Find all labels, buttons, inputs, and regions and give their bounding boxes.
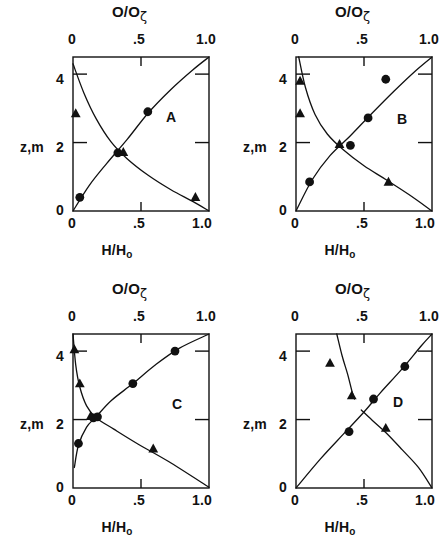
panel-C-top-tick-0: 0: [68, 309, 76, 323]
data-point-circle: [381, 75, 390, 84]
panel-B: O/Oζ 0 .5 1.0 4 2 0 z,m 0 .5 1.0 H/Ho B: [223, 0, 446, 277]
panel-D-bottom-tick-2: 1.0: [415, 493, 435, 507]
panel-C-y-tick-0: 0: [56, 480, 64, 494]
panel-B-top-axis-label: O/Oζ: [335, 4, 370, 23]
data-point-circle: [143, 107, 152, 116]
panel-D-y-tick-0: 0: [279, 480, 287, 494]
panel-C-letter: C: [172, 397, 182, 411]
panel-A-bottom-tick-0: 0: [68, 216, 76, 230]
panel-D: O/Oζ 0 .5 1.0 4 2 0 z,m 0 .5 1.0 H/Ho D: [223, 277, 446, 553]
panel-D-y-tick-2: 2: [279, 417, 287, 431]
panel-D-top-tick-2: 1.0: [419, 309, 439, 323]
panel-B-bottom-tick-1: .5: [356, 216, 368, 230]
panel-D-bottom-tick-0: 0: [291, 493, 299, 507]
panel-A-y-tick-0: 0: [56, 203, 64, 217]
panel-D-bottom-axis-label: H/Ho: [324, 520, 355, 537]
panel-D-top-axis-label: O/Oζ: [335, 281, 370, 300]
plot-frame: [296, 57, 432, 211]
panel-C: O/Oζ 0 .5 1.0 4 2 0 z,m 0 .5 1.0 H/Ho C: [0, 277, 223, 553]
data-point-triangle: [71, 108, 81, 117]
data-point-circle: [346, 141, 355, 150]
panel-A: O/Oζ 0 .5 1.0 4 2 0 z,m 0 .5 1.0 H/Ho A: [0, 0, 223, 277]
panel-B-y-tick-4: 4: [279, 72, 287, 86]
panel-B-letter: B: [397, 112, 407, 126]
data-point-triangle: [381, 423, 391, 432]
panel-A-top-axis-label: O/Oζ: [112, 4, 147, 23]
panel-B-top-tick-2: 1.0: [419, 32, 439, 46]
data-point-circle: [369, 395, 378, 404]
data-point-triangle: [347, 390, 357, 399]
panel-B-y-tick-0: 0: [279, 203, 287, 217]
data-point-triangle: [69, 344, 79, 353]
panel-A-top-tick-2: 1.0: [196, 32, 216, 46]
panel-C-y-tick-4: 4: [56, 349, 64, 363]
panel-D-top-tick-1: .5: [356, 309, 368, 323]
panel-A-bottom-tick-1: .5: [133, 216, 145, 230]
panel-C-bottom-tick-0: 0: [68, 493, 76, 507]
panel-A-top-tick-1: .5: [133, 32, 145, 46]
panel-C-top-tick-1: .5: [133, 309, 145, 323]
panel-A-y-tick-2: 2: [56, 140, 64, 154]
panel-C-top-tick-2: 1.0: [196, 309, 216, 323]
panel-D-bottom-tick-1: .5: [356, 493, 368, 507]
panel-A-bottom-axis-label: H/Ho: [101, 243, 132, 260]
data-point-circle: [93, 412, 102, 421]
panel-B-y-tick-2: 2: [279, 140, 287, 154]
curve-falling-curve: [73, 334, 209, 487]
panel-D-y-axis-label: z,m: [243, 417, 267, 431]
panel-C-bottom-axis-label: H/Ho: [101, 520, 132, 537]
data-point-triangle: [148, 443, 158, 452]
panel-D-top-tick-0: 0: [291, 309, 299, 323]
data-point-circle: [345, 427, 354, 436]
panel-B-bottom-tick-2: 1.0: [415, 216, 435, 230]
panel-B-top-tick-0: 0: [291, 32, 299, 46]
panel-C-bottom-tick-1: .5: [133, 493, 145, 507]
data-point-circle: [364, 114, 373, 123]
curve-rising-curve: [296, 57, 432, 211]
data-point-triangle: [384, 177, 394, 186]
curve-rising-curve: [296, 334, 432, 488]
panel-C-y-axis-label: z,m: [20, 417, 44, 431]
data-point-circle: [171, 347, 180, 356]
data-point-circle: [74, 439, 83, 448]
data-point-circle: [128, 379, 137, 388]
panel-D-letter: D: [393, 395, 403, 409]
curve-falling-curve: [73, 64, 209, 211]
data-point-triangle: [191, 192, 201, 201]
data-point-circle: [305, 178, 314, 187]
panel-C-plot: [0, 277, 223, 553]
panel-A-letter: A: [166, 110, 176, 124]
curve-rising-curve: [74, 334, 209, 467]
panel-C-top-axis-label: O/Oζ: [112, 281, 147, 300]
data-point-circle: [75, 193, 84, 202]
panel-A-top-tick-0: 0: [68, 32, 76, 46]
panel-B-top-tick-1: .5: [356, 32, 368, 46]
panel-B-bottom-axis-label: H/Ho: [324, 243, 355, 260]
plot-frame: [73, 57, 209, 211]
data-point-circle: [400, 362, 409, 371]
curve-falling-curve-upper: [337, 334, 355, 399]
curve-falling-curve: [299, 57, 432, 211]
plot-frame: [73, 334, 209, 488]
panel-A-y-axis-label: z,m: [20, 140, 44, 154]
panel-B-bottom-tick-0: 0: [291, 216, 299, 230]
panel-B-y-axis-label: z,m: [243, 140, 267, 154]
panel-A-bottom-tick-2: 1.0: [192, 216, 212, 230]
panel-A-y-tick-4: 4: [56, 72, 64, 86]
panel-C-y-tick-2: 2: [56, 417, 64, 431]
curve-falling-curve-lower: [361, 410, 432, 488]
data-point-triangle: [325, 358, 335, 367]
data-point-triangle: [75, 378, 85, 387]
panel-D-y-tick-4: 4: [279, 349, 287, 363]
figure-grid: O/Oζ 0 .5 1.0 4 2 0 z,m 0 .5 1.0 H/Ho A …: [0, 0, 446, 553]
curve-rising-curve: [73, 57, 209, 211]
panel-C-bottom-tick-2: 1.0: [192, 493, 212, 507]
panel-D-plot: [223, 277, 446, 553]
